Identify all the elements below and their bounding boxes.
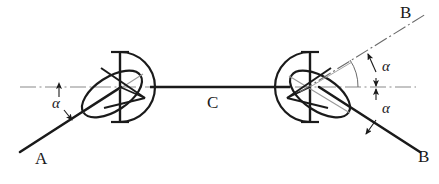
alpha-right-upper-dimension [368,54,376,86]
label-angle-left: α [52,96,60,111]
left-joint [74,52,155,127]
right-cross-hub-link [287,87,310,98]
arm-a-line [20,87,121,152]
label-angle-right-lower: α [382,101,390,116]
label-angle-right-upper: α [382,59,390,74]
alpha-right-lower-dimension [366,89,376,134]
alpha-left-dimension [59,88,72,120]
arm-b-line [319,87,420,152]
alpha-left-arrow-down [64,110,72,120]
right-angle-arc [350,60,358,87]
label-arm-b: B [418,148,429,165]
label-arm-a: A [35,150,47,167]
label-shaft-c: C [207,94,218,111]
universal-joint-diagram: A B B C α α α [0,0,439,184]
diagram-canvas [0,0,439,184]
alpha-right-lower-arrow-down [366,120,376,134]
label-axis-b: B [400,4,411,21]
alpha-right-upper-arrow-up [368,54,376,72]
right-angle-arc-leader [310,62,352,87]
